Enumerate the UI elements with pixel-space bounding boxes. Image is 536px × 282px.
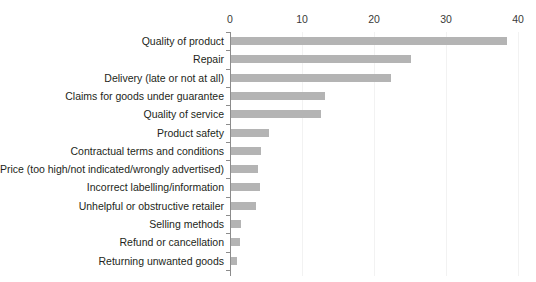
bar-row: Delivery (late or not at all) [230,69,518,87]
category-label: Quality of product [0,32,224,50]
bar [230,147,261,155]
category-axis-tick [226,270,230,271]
category-label: Incorrect labelling/information [0,178,224,196]
bar [230,202,256,210]
category-label: Repair [0,50,224,68]
category-axis-tick [226,160,230,161]
category-axis-tick [226,252,230,253]
bar-row: Contractual terms and conditions [230,142,518,160]
category-axis-tick [226,105,230,106]
bar-row: Refund or cancellation [230,233,518,251]
bar [230,238,240,246]
category-label: Selling methods [0,215,224,233]
category-label: Price (too high/not indicated/wrongly ad… [0,160,224,178]
bar [230,183,260,191]
bar [230,74,391,82]
category-axis-tick [226,87,230,88]
category-axis-tick [226,142,230,143]
bar [230,92,325,100]
category-axis-tick [226,178,230,179]
bar-row: Unhelpful or obstructive retailer [230,197,518,215]
x-axis-tick-labels: 010203040 [230,12,518,28]
bar [230,257,237,265]
bar-row: Returning unwanted goods [230,252,518,270]
bar-row: Quality of service [230,105,518,123]
bar-row: Quality of product [230,32,518,50]
bar-chart: 010203040 Quality of productRepairDelive… [0,0,536,282]
x-tick-label: 20 [368,12,380,26]
category-axis-tick [226,69,230,70]
category-axis-tick [226,32,230,33]
category-label: Delivery (late or not at all) [0,69,224,87]
bar [230,129,269,137]
bar-row: Price (too high/not indicated/wrongly ad… [230,160,518,178]
bar [230,220,241,228]
category-label: Unhelpful or obstructive retailer [0,197,224,215]
category-label: Quality of service [0,105,224,123]
gridline [518,32,519,276]
category-axis-tick [226,215,230,216]
bar [230,110,321,118]
category-label: Refund or cancellation [0,233,224,251]
category-axis-tick [226,233,230,234]
bar [230,55,411,63]
category-label: Contractual terms and conditions [0,142,224,160]
category-label: Claims for goods under guarantee [0,87,224,105]
category-axis-line [230,32,231,276]
bar-row: Product safety [230,124,518,142]
x-tick-label: 10 [296,12,308,26]
bar-row: Selling methods [230,215,518,233]
category-label: Returning unwanted goods [0,252,224,270]
plot-area: Quality of productRepairDelivery (late o… [230,32,518,276]
category-axis-tick [226,124,230,125]
bar [230,165,258,173]
x-tick-label: 40 [512,12,524,26]
bar-row: Claims for goods under guarantee [230,87,518,105]
bar-row: Incorrect labelling/information [230,178,518,196]
x-tick-label: 30 [440,12,452,26]
category-axis-tick [226,197,230,198]
bar-row: Repair [230,50,518,68]
x-tick-label: 0 [227,12,233,26]
category-label: Product safety [0,124,224,142]
category-axis-tick [226,50,230,51]
bar [230,37,507,45]
